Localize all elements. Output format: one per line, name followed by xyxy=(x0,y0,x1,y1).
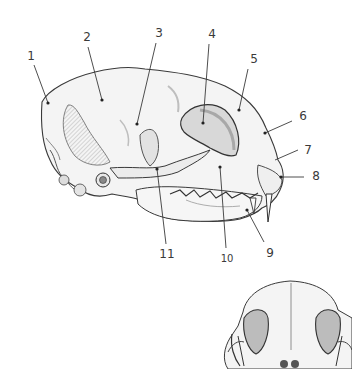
lateral-skull xyxy=(41,67,283,222)
label-6: 6 xyxy=(299,110,307,122)
label-2: 2 xyxy=(83,31,91,43)
label-7: 7 xyxy=(304,144,312,156)
label-4: 4 xyxy=(208,28,216,40)
upper-canine xyxy=(266,194,272,222)
label-8: 8 xyxy=(312,170,320,182)
label-5: 5 xyxy=(250,53,258,65)
label-11: 11 xyxy=(159,248,174,260)
label-3: 3 xyxy=(155,27,163,39)
frontal-skull xyxy=(224,281,352,369)
cat-skull-diagram xyxy=(0,0,352,369)
label-9: 9 xyxy=(266,247,274,259)
label-10: 10 xyxy=(221,254,234,264)
label-1: 1 xyxy=(27,50,35,62)
